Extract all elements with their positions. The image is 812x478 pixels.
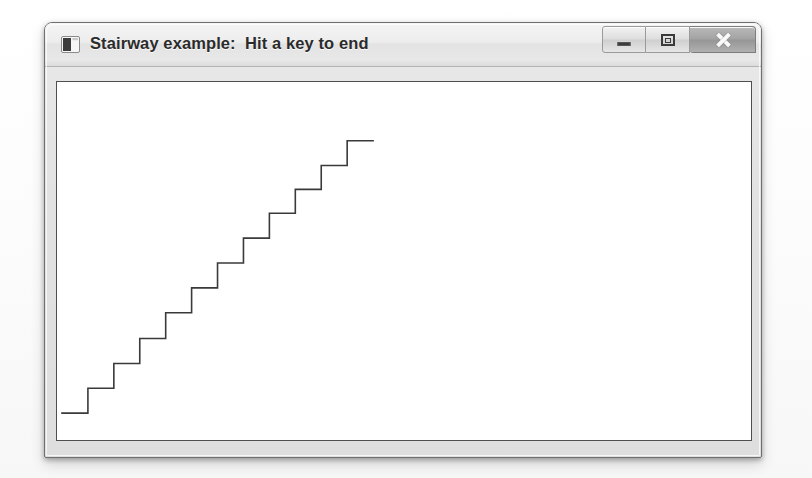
page-background: Stairway example: Hit a key to end <box>0 0 812 478</box>
minimize-button[interactable] <box>602 26 646 53</box>
minimize-icon <box>618 42 631 46</box>
close-button[interactable] <box>690 26 756 53</box>
close-icon <box>714 31 732 49</box>
maximize-icon <box>661 34 675 46</box>
client-area[interactable] <box>56 81 752 441</box>
window-controls <box>602 26 756 53</box>
app-window-icon <box>61 36 80 53</box>
stairway-plot <box>57 82 751 440</box>
application-window: Stairway example: Hit a key to end <box>44 22 762 458</box>
maximize-button[interactable] <box>646 26 690 53</box>
window-title: Stairway example: Hit a key to end <box>90 34 369 53</box>
stairway-polyline <box>62 141 373 413</box>
title-bar[interactable]: Stairway example: Hit a key to end <box>45 23 761 67</box>
